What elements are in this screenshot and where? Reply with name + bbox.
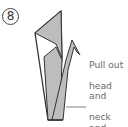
instruction-line: neck and [89, 112, 128, 127]
instruction-line: head and [89, 81, 128, 102]
instruction-text: Pull out head and neck and open folds to… [89, 49, 128, 127]
instruction-line: Pull out [89, 60, 128, 71]
